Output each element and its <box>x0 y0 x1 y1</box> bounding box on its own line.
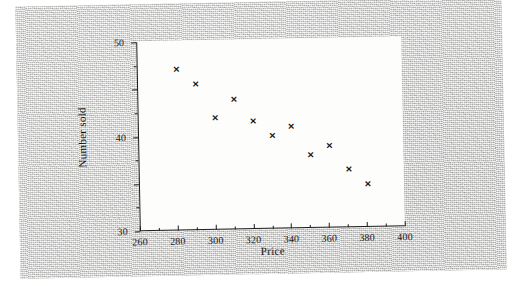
x-tick-minor <box>272 226 273 229</box>
data-point-marker: × <box>325 141 334 150</box>
y-tick-minor <box>135 113 138 114</box>
plot-axes: 1020304050 260280300320340360380400 ××××… <box>136 37 405 231</box>
y-tick: 10 <box>135 231 140 232</box>
x-tick-minor <box>310 225 311 228</box>
x-tick: 340 <box>291 223 292 228</box>
x-tick: 260 <box>140 226 141 231</box>
y-tick-minor <box>134 66 137 67</box>
x-tick-label: 340 <box>284 233 300 244</box>
scanned-figure-page: 1020304050 260280300320340360380400 ××××… <box>0 0 518 286</box>
x-tick: 380 <box>367 222 368 227</box>
x-tick-label: 320 <box>246 234 262 245</box>
y-tick: 50 <box>131 42 136 43</box>
x-tick-label: 280 <box>170 235 186 246</box>
x-tick-label: 380 <box>359 232 375 243</box>
y-tick-label: 50 <box>114 37 125 48</box>
data-point-marker: × <box>172 65 181 74</box>
x-tick: 300 <box>215 225 216 230</box>
data-point-marker: × <box>249 117 258 126</box>
data-point-marker: × <box>211 113 220 122</box>
y-tick-minor <box>135 160 138 161</box>
y-tick: 40 <box>132 90 137 91</box>
x-tick: 400 <box>405 221 406 226</box>
y-tick-label: 40 <box>116 132 127 143</box>
x-tick-minor <box>197 227 198 230</box>
x-tick: 320 <box>253 224 254 229</box>
x-tick-minor <box>234 226 235 229</box>
y-tick: 20 <box>134 184 139 185</box>
data-point-marker: × <box>191 79 200 88</box>
data-point-marker: × <box>306 150 315 159</box>
data-point-marker: × <box>363 180 372 189</box>
data-point-marker: × <box>229 95 238 104</box>
data-point-marker: × <box>268 132 277 141</box>
x-tick-minor <box>386 224 387 227</box>
data-point-marker: × <box>344 165 353 174</box>
y-tick-label: 30 <box>117 226 128 237</box>
x-tick: 280 <box>178 226 179 231</box>
x-tick-label: 300 <box>208 235 224 246</box>
y-tick: 30 <box>133 137 138 138</box>
data-point-marker: × <box>287 122 296 131</box>
x-tick-label: 400 <box>397 231 413 242</box>
y-tick-minor <box>136 208 139 209</box>
x-tick-minor <box>159 228 160 231</box>
x-tick-label: 360 <box>321 233 337 244</box>
x-tick-minor <box>348 224 349 227</box>
x-tick: 360 <box>329 223 330 228</box>
scatter-plot-figure: 1020304050 260280300320340360380400 ××××… <box>96 23 420 245</box>
y-axis-title: Number sold <box>75 107 88 168</box>
x-tick-label: 260 <box>132 236 148 247</box>
